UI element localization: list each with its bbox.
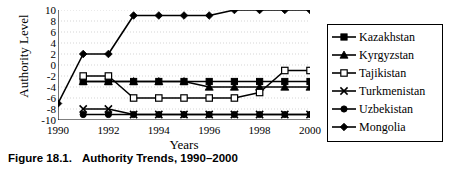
y-tick-label: 0 (51, 60, 57, 70)
filled-diamond-marker (256, 10, 264, 14)
y-tick-label: 2 (51, 49, 57, 59)
chart-panel: Authority Level 1086420-2-4-6-8-10 19901… (8, 4, 318, 140)
open-square-marker (256, 89, 262, 95)
legend-label: Kyrgyzstan (357, 49, 414, 62)
figure-container: Authority Level 1086420-2-4-6-8-10 19901… (0, 0, 449, 174)
series-mongolia (58, 10, 310, 107)
filled-diamond-marker (205, 12, 213, 20)
open-square-marker (307, 67, 310, 73)
x-tick-label: 1992 (97, 124, 119, 136)
filled-diamond-marker (306, 10, 310, 14)
filled-circle-marker (282, 111, 288, 117)
y-axis-tick-labels: 1086420-2-4-6-8-10 (30, 4, 56, 124)
y-tick-label: -2 (47, 71, 56, 81)
figure-number: Figure 18.1. (8, 152, 72, 164)
y-tick-label: -8 (47, 104, 56, 114)
filled-circle-marker (156, 111, 162, 117)
filled-diamond-marker (155, 12, 163, 20)
filled-diamond-marker (281, 10, 289, 14)
open-square-marker (231, 95, 237, 101)
y-tick-label: 6 (51, 27, 57, 37)
filled-circle-marker (341, 106, 347, 112)
series-line (58, 10, 310, 104)
legend-label: Uzbekistan (357, 103, 413, 116)
filled-square-marker (341, 34, 347, 40)
open-square-marker (181, 95, 187, 101)
x-tick-label: 1990 (47, 124, 69, 136)
legend-marker-filled-triangle-marker (331, 47, 357, 63)
legend-item-uzbekistan[interactable]: Uzbekistan (331, 100, 440, 118)
y-tick-label: -6 (47, 93, 56, 103)
chart-plot-svg (58, 10, 310, 120)
legend-label: Turkmenistan (357, 85, 425, 98)
y-tick-label: 10 (45, 5, 56, 15)
open-square-marker (130, 95, 136, 101)
filled-diamond-marker (79, 50, 87, 58)
legend-label: Tajikistan (357, 67, 406, 80)
y-tick-label: -4 (47, 82, 56, 92)
legend-marker-filled-square-marker (331, 29, 357, 45)
series-uzbekistan (80, 111, 310, 117)
filled-diamond-marker (180, 12, 188, 20)
x-axis-label: Years (58, 137, 310, 153)
filled-circle-marker (105, 111, 111, 117)
legend-marker-open-square-marker (331, 65, 357, 81)
legend-item-mongolia[interactable]: Mongolia (331, 118, 440, 136)
x-tick-label: 1996 (198, 124, 220, 136)
x-tick-label: 1998 (249, 124, 271, 136)
legend-item-tajikistan[interactable]: Tajikistan (331, 64, 440, 82)
y-tick-label: 8 (51, 16, 57, 26)
y-tick-label: 4 (51, 38, 57, 48)
open-square-marker (80, 73, 86, 79)
open-square-marker (156, 95, 162, 101)
filled-circle-marker (231, 111, 237, 117)
legend-label: Kazakhstan (357, 31, 415, 44)
filled-diamond-marker (340, 123, 348, 131)
x-axis-tick-labels: 199019921994199619982000 (58, 124, 310, 138)
figure-title: Authority Trends, 1990–2000 (82, 152, 238, 164)
filled-circle-marker (131, 111, 137, 117)
x-tick-label: 2000 (299, 124, 321, 136)
legend-marker-filled-diamond-marker (331, 119, 357, 135)
series-line (83, 109, 310, 115)
filled-circle-marker (181, 111, 187, 117)
x-tick-label: 1994 (148, 124, 170, 136)
figure-caption: Figure 18.1.Authority Trends, 1990–2000 (8, 152, 238, 164)
open-square-marker (282, 67, 288, 73)
legend-item-turkmenistan[interactable]: Turkmenistan (331, 82, 440, 100)
series-turkmenistan (80, 105, 310, 118)
chart-legend: KazakhstanKyrgyzstanTajikistanTurkmenist… (327, 24, 443, 142)
legend-item-kazakhstan[interactable]: Kazakhstan (331, 28, 440, 46)
filled-circle-marker (80, 111, 86, 117)
legend-item-kyrgyzstan[interactable]: Kyrgyzstan (331, 46, 440, 64)
legend-marker-cross-x-marker (331, 83, 357, 99)
filled-circle-marker (257, 111, 263, 117)
legend-label: Mongolia (357, 121, 406, 134)
open-square-marker (341, 70, 347, 76)
filled-circle-marker (206, 111, 212, 117)
open-square-marker (206, 95, 212, 101)
filled-circle-marker (307, 111, 310, 117)
open-square-marker (105, 73, 111, 79)
plot-area (58, 10, 310, 120)
legend-marker-filled-circle-marker (331, 101, 357, 117)
filled-diamond-marker (231, 10, 239, 14)
